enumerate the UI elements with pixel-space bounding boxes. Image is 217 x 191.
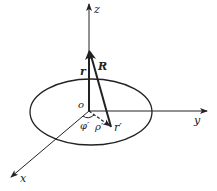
r-vector-label: r bbox=[80, 65, 87, 78]
rho-prime-label: ρ′ bbox=[94, 121, 104, 132]
coordinate-diagram: z y x o r R r′ ρ′ φ′ bbox=[0, 0, 217, 191]
phi-prime-angle-arc bbox=[83, 115, 94, 118]
x-axis-label: x bbox=[20, 172, 27, 185]
y-axis-label: y bbox=[193, 114, 201, 127]
phi-prime-label: φ′ bbox=[80, 120, 90, 131]
origin-label: o bbox=[78, 99, 84, 110]
R-vector-label: R bbox=[97, 60, 107, 73]
r-prime-label: r′ bbox=[114, 121, 122, 134]
z-axis-label: z bbox=[93, 3, 100, 16]
